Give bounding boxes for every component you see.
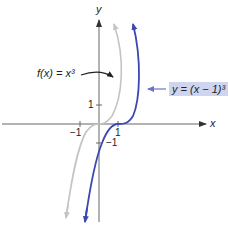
x-axis-label: x — [210, 117, 216, 129]
transformed-function-label: y = (x − 1)³ — [169, 82, 228, 96]
parent-label-pointer — [81, 72, 113, 77]
tick-label-y-neg1: −1 — [106, 137, 117, 148]
parent-curve — [66, 24, 121, 218]
graph-canvas — [0, 0, 228, 236]
y-axis-label: y — [96, 3, 102, 15]
tick-label-x-neg1: −1 — [70, 127, 81, 138]
tick-label-y-pos1: 1 — [88, 99, 94, 110]
parent-function-label: f(x) = x³ — [37, 67, 75, 79]
transformed-curve — [85, 24, 139, 222]
